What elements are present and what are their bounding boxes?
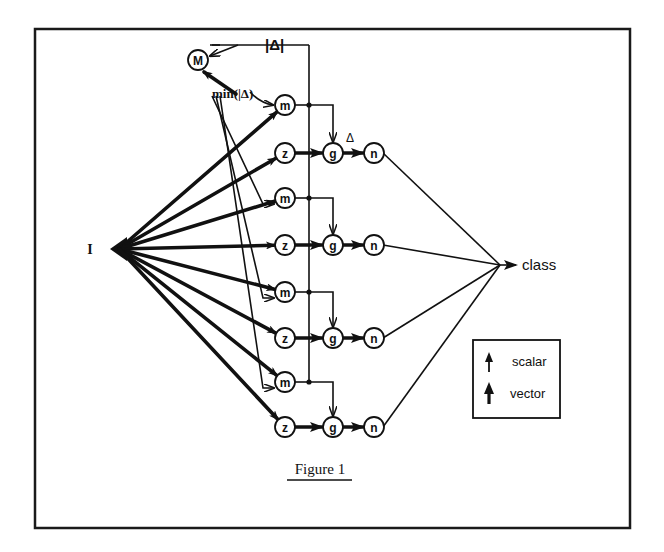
node-M: M [188, 50, 208, 70]
input-label: I [87, 242, 92, 257]
node-m1: m [275, 95, 295, 115]
node-g3-label: g [329, 332, 336, 346]
node-g2-label: g [329, 239, 336, 253]
node-z3: z [275, 328, 295, 348]
node-g4: g [323, 417, 343, 437]
m1-to-g [309, 105, 333, 142]
input-to-z4 [119, 249, 277, 419]
node-g1: g [323, 143, 343, 163]
node-z1-label: z [282, 147, 288, 161]
m2-to-g [309, 198, 333, 234]
node-m1-label: m [280, 99, 291, 113]
input-to-z1 [119, 159, 275, 249]
min-to-m1-arrow [250, 92, 273, 105]
node-n1-label: n [370, 147, 377, 161]
node-m2: m [275, 188, 295, 208]
input-to-z3 [119, 249, 275, 333]
node-g3: g [323, 328, 343, 348]
input-to-m2 [119, 201, 274, 249]
node-m2-label: m [280, 192, 291, 206]
node-z2: z [275, 235, 295, 255]
node-z3-label: z [282, 332, 288, 346]
output-class-label: class [522, 256, 556, 273]
figure-frame [35, 29, 630, 528]
min-abs-delta-label: min(|Δ) [212, 86, 253, 101]
node-n3: n [364, 328, 384, 348]
node-z4: z [275, 417, 295, 437]
node-n2-label: n [370, 239, 377, 253]
node-n4-label: n [370, 421, 377, 435]
node-z1: z [275, 143, 295, 163]
node-g1-label: g [329, 147, 336, 161]
node-n2: n [364, 235, 384, 255]
node-M-label: M [193, 54, 203, 68]
legend-scalar-label: scalar [512, 354, 547, 369]
legend-vector-label: vector [510, 386, 546, 401]
node-m3-label: m [280, 286, 291, 300]
node-g2: g [323, 235, 343, 255]
n3-to-class [383, 265, 500, 338]
input-to-m1 [119, 112, 277, 249]
abs-delta-arrow-to-M [210, 45, 238, 56]
node-z2-label: z [282, 239, 288, 253]
legend-box: scalar vector [473, 340, 560, 418]
m4-to-g [309, 382, 333, 416]
node-g4-label: g [329, 421, 336, 435]
figure-1-diagram: mzgnmzgnmzgnmzgnM I class |Δ| min(|Δ) Δ … [0, 0, 664, 552]
diagram-edges [110, 45, 516, 427]
node-n4: n [364, 417, 384, 437]
node-n3-label: n [370, 332, 377, 346]
abs-delta-label: |Δ| [265, 36, 284, 53]
node-m4-label: m [280, 376, 291, 390]
delta-label: Δ [346, 131, 354, 145]
node-n1: n [364, 143, 384, 163]
node-m4: m [275, 372, 295, 392]
node-m3: m [275, 282, 295, 302]
node-z4-label: z [282, 421, 288, 435]
figure-caption: Figure 1 [295, 461, 345, 477]
m3-to-g [309, 292, 333, 327]
